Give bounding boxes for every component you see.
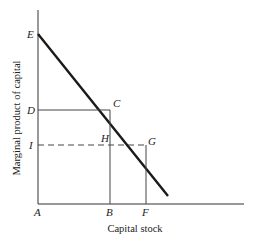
label-g: G — [148, 135, 156, 147]
label-c: C — [113, 97, 121, 109]
label-a: A — [33, 206, 41, 218]
label-d: D — [26, 104, 35, 116]
label-f: F — [141, 206, 149, 218]
label-e: E — [26, 28, 34, 40]
mpk-curve — [38, 34, 168, 196]
y-axis-title: Marginal product of capital — [11, 60, 22, 175]
x-axis-title: Capital stock — [107, 223, 163, 234]
marginal-product-diagram: E D I C H G A B F Capital stock Marginal… — [0, 0, 259, 240]
label-b: B — [106, 206, 113, 218]
label-h: H — [100, 132, 110, 144]
label-i: I — [28, 139, 34, 151]
